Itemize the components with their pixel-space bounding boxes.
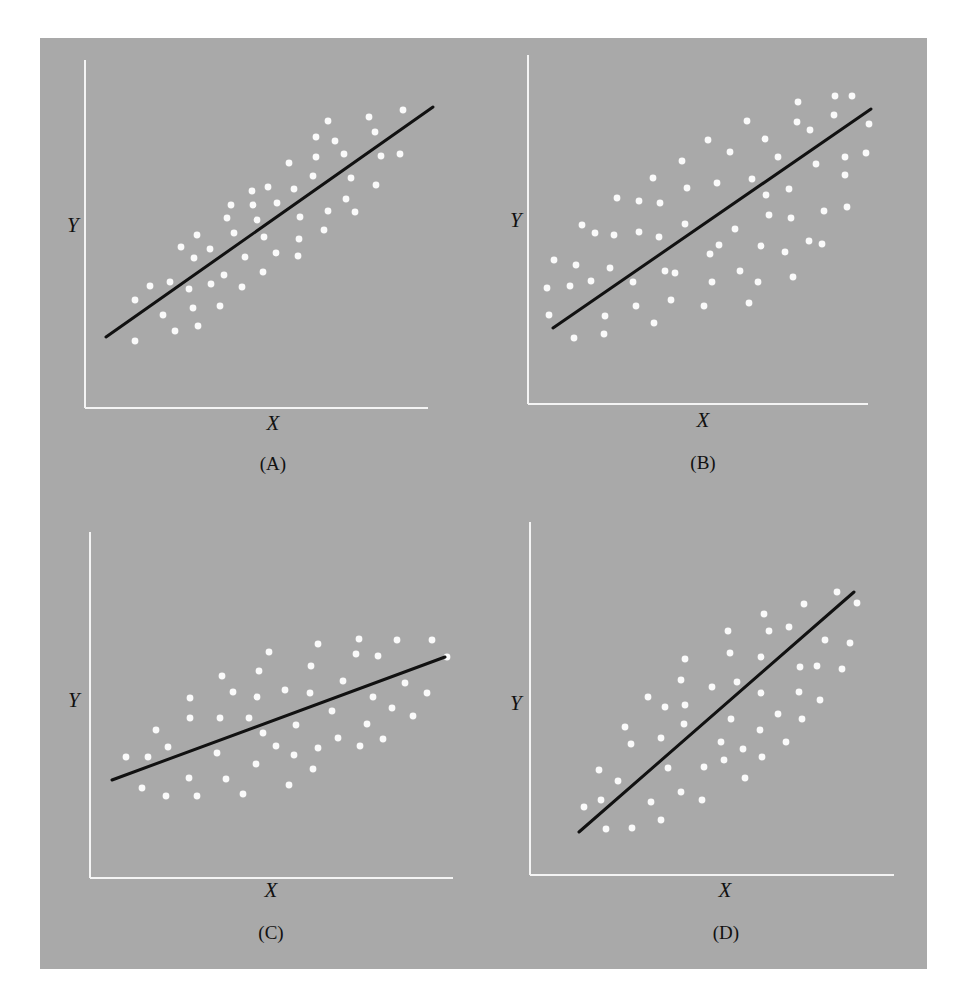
data-point <box>286 782 293 789</box>
data-point <box>165 744 172 751</box>
data-point <box>742 775 749 782</box>
data-point <box>400 107 407 114</box>
data-point <box>701 303 708 310</box>
data-point <box>725 628 732 635</box>
data-point <box>123 754 130 761</box>
data-point <box>866 121 873 128</box>
data-point <box>249 188 256 195</box>
data-point <box>194 793 201 800</box>
data-point <box>672 270 679 277</box>
data-point <box>217 303 224 310</box>
data-point <box>863 150 870 157</box>
data-point <box>844 204 851 211</box>
data-point <box>261 234 268 241</box>
data-point <box>679 158 686 165</box>
panel-caption: (A) <box>260 453 286 475</box>
panel-caption: (C) <box>258 922 283 944</box>
data-point <box>651 320 658 327</box>
data-point <box>758 690 765 697</box>
data-point <box>758 243 765 250</box>
data-point <box>786 186 793 193</box>
data-point <box>727 650 734 657</box>
data-point <box>378 153 385 160</box>
data-point <box>801 601 808 608</box>
data-point <box>822 637 829 644</box>
data-point <box>187 715 194 722</box>
data-point <box>147 283 154 290</box>
data-point <box>716 242 723 249</box>
data-point <box>648 799 655 806</box>
data-point <box>571 335 578 342</box>
data-point <box>286 160 293 167</box>
data-point <box>282 687 289 694</box>
data-point <box>668 297 675 304</box>
data-point <box>260 269 267 276</box>
data-point <box>190 305 197 312</box>
data-point <box>332 138 339 145</box>
data-point <box>375 653 382 660</box>
data-point <box>544 285 551 292</box>
data-point <box>763 192 770 199</box>
data-point <box>602 313 609 320</box>
data-point <box>293 722 300 729</box>
data-point <box>707 251 714 258</box>
data-point <box>786 624 793 631</box>
data-point <box>132 297 139 304</box>
data-point <box>424 690 431 697</box>
data-point <box>217 715 224 722</box>
data-point <box>842 172 849 179</box>
data-point <box>737 268 744 275</box>
data-point <box>315 641 322 648</box>
data-point <box>139 785 146 792</box>
data-point <box>260 730 267 737</box>
regression-line <box>553 109 871 328</box>
data-point <box>598 797 605 804</box>
regression-line <box>579 592 854 832</box>
data-point <box>246 715 253 722</box>
data-point <box>207 246 214 253</box>
data-point <box>705 137 712 144</box>
x-axis-label: X <box>266 411 281 435</box>
data-point <box>191 255 198 262</box>
data-point <box>429 637 436 644</box>
data-point <box>749 176 756 183</box>
data-point <box>645 694 652 701</box>
data-point <box>796 689 803 696</box>
data-point <box>656 234 663 241</box>
data-point <box>746 300 753 307</box>
y-axis-label: Y <box>68 688 82 712</box>
data-point <box>329 708 336 715</box>
data-point <box>208 281 215 288</box>
data-point <box>831 112 838 119</box>
data-point <box>274 200 281 207</box>
data-point <box>307 690 314 697</box>
data-point <box>187 695 194 702</box>
data-point <box>394 637 401 644</box>
data-point <box>596 767 603 774</box>
data-point <box>766 628 773 635</box>
data-point <box>795 99 802 106</box>
data-point <box>167 279 174 286</box>
y-axis-label: Y <box>510 691 524 715</box>
data-point <box>775 711 782 718</box>
data-point <box>573 262 580 269</box>
data-point <box>410 713 417 720</box>
data-point <box>356 636 363 643</box>
data-point <box>389 705 396 712</box>
data-point <box>310 173 317 180</box>
data-point <box>761 611 768 618</box>
data-point <box>799 716 806 723</box>
data-point <box>758 654 765 661</box>
data-point <box>273 743 280 750</box>
data-point <box>194 232 201 239</box>
data-point <box>842 154 849 161</box>
data-point <box>662 268 669 275</box>
data-point <box>308 663 315 670</box>
x-axis-label: X <box>696 408 711 432</box>
data-point <box>665 765 672 772</box>
panel-d: Y X (D) <box>510 522 894 944</box>
regression-line <box>112 657 445 780</box>
data-point <box>335 735 342 742</box>
data-point <box>266 649 273 656</box>
data-point <box>807 127 814 134</box>
